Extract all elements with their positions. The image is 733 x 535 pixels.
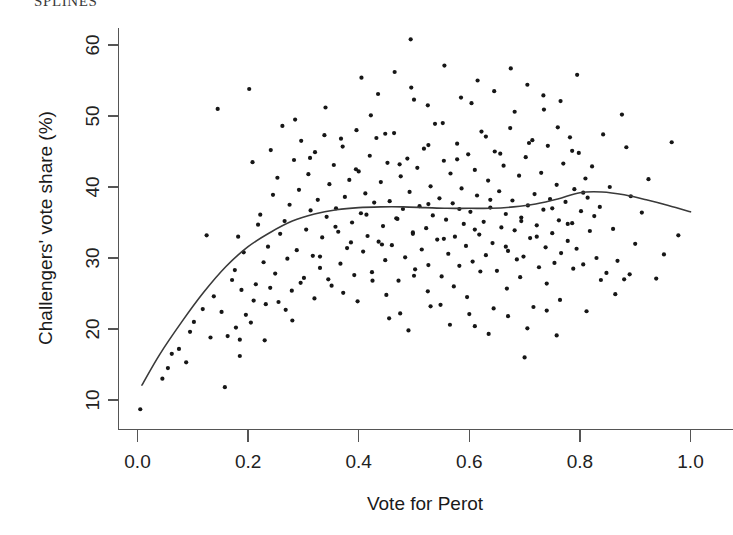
data-point [542, 108, 546, 112]
data-point [599, 278, 603, 282]
data-point [473, 228, 477, 232]
data-point [412, 274, 416, 278]
data-point [438, 303, 442, 307]
data-point [359, 211, 363, 215]
data-point [388, 199, 392, 203]
data-point [290, 318, 294, 322]
data-point [302, 276, 306, 280]
data-point [405, 157, 409, 161]
data-point [572, 187, 576, 191]
data-point [440, 274, 444, 278]
data-point [398, 311, 402, 315]
data-point [364, 213, 368, 217]
data-point [349, 240, 353, 244]
data-point [254, 282, 258, 286]
data-point [469, 101, 473, 105]
data-point [299, 139, 303, 143]
data-point [428, 184, 432, 188]
data-point [594, 256, 598, 260]
data-point [325, 215, 329, 219]
data-point [646, 177, 650, 181]
data-point [318, 266, 322, 270]
data-point [322, 133, 326, 137]
data-point [269, 148, 273, 152]
data-point [624, 145, 628, 149]
data-point [513, 228, 517, 232]
data-point [508, 126, 512, 130]
data-point [555, 333, 559, 337]
data-point [442, 237, 446, 241]
data-point [368, 154, 372, 158]
data-point [473, 324, 477, 328]
data-point [532, 192, 536, 196]
data-point [601, 132, 605, 136]
data-point [266, 245, 270, 249]
data-point [497, 189, 501, 193]
data-point [238, 338, 242, 342]
data-point [537, 265, 541, 269]
data-point [441, 121, 445, 125]
data-point [604, 271, 608, 275]
data-point [299, 281, 303, 285]
data-point [510, 198, 514, 202]
data-point [493, 149, 497, 153]
data-point [525, 326, 529, 330]
data-point [530, 138, 534, 142]
data-point [271, 193, 275, 197]
data-point [566, 222, 570, 226]
data-point [640, 210, 644, 214]
data-point [592, 214, 596, 218]
data-point [477, 232, 481, 236]
data-point [316, 198, 320, 202]
data-point [323, 105, 327, 109]
data-point [409, 86, 413, 90]
data-point [545, 281, 549, 285]
data-point [550, 231, 554, 235]
data-point [513, 110, 517, 114]
data-point [426, 202, 430, 206]
data-point [352, 273, 356, 277]
data-point [504, 245, 508, 249]
data-point [336, 230, 340, 234]
data-point [475, 78, 479, 82]
data-point [506, 314, 510, 318]
data-point [486, 179, 490, 183]
data-point [234, 325, 238, 329]
data-point [613, 292, 617, 296]
data-point [482, 220, 486, 224]
data-point [487, 332, 491, 336]
data-point [399, 174, 403, 178]
data-point [390, 243, 394, 247]
data-point [280, 124, 284, 128]
data-point [338, 262, 342, 266]
y-tick-label: 60 [82, 34, 103, 55]
data-point [415, 166, 419, 170]
data-point [574, 247, 578, 251]
data-point [407, 190, 411, 194]
data-point [570, 221, 574, 225]
x-tick-label: 0.6 [456, 451, 482, 472]
data-point [622, 277, 626, 281]
data-point [590, 164, 594, 168]
data-point [226, 334, 230, 338]
chart-figure: SPLINES 102030405060 0.00.20.40.60.81.0 … [0, 0, 733, 535]
data-point [350, 220, 354, 224]
y-tick-label: 30 [82, 247, 103, 268]
data-point [380, 242, 384, 246]
data-points-group [138, 37, 680, 411]
data-point [273, 272, 277, 276]
data-point [433, 122, 437, 126]
data-point [354, 167, 358, 171]
data-point [283, 219, 287, 223]
data-point [527, 141, 531, 145]
data-point [278, 232, 282, 236]
data-point [509, 66, 513, 70]
data-point [332, 163, 336, 167]
data-point [620, 112, 624, 116]
data-point [426, 103, 430, 107]
data-point [424, 226, 428, 230]
data-point [359, 76, 363, 80]
data-point [598, 205, 602, 209]
data-point [524, 155, 528, 159]
data-point [275, 176, 279, 180]
